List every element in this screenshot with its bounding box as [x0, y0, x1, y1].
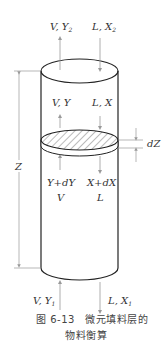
column-cylinder	[41, 59, 118, 280]
gas-in-label: V, Y1	[33, 295, 55, 307]
top-ellipse	[41, 59, 118, 83]
caption-line-2: 物料衡算	[65, 329, 107, 341]
caption-line-1: 图 6-13 微元填料层的	[36, 313, 148, 325]
dz-label: dZ	[147, 138, 161, 149]
gas-mid-label: V, Y	[52, 97, 72, 108]
flow-arrows	[60, 38, 100, 312]
gas-flow-label: V	[57, 192, 66, 203]
gas-composition-label: Y+dY	[47, 177, 76, 188]
liquid-flow-label: L	[96, 192, 104, 203]
liquid-in-label: L, X2	[91, 21, 116, 33]
gas-out-label: V, Y2	[50, 21, 72, 33]
liquid-composition-label: X+dX	[86, 177, 117, 188]
packed-column-diagram: Z dZ V, Y2 L, X2 V, Y L, X Y+dY X+dX V L…	[0, 0, 168, 342]
liquid-out-label: L, X1	[107, 295, 132, 307]
differential-element	[41, 130, 118, 156]
z-label: Z	[14, 161, 23, 172]
bottom-arc	[41, 268, 118, 280]
liquid-mid-label: L, X	[91, 97, 113, 108]
dz-dimension	[118, 128, 143, 162]
